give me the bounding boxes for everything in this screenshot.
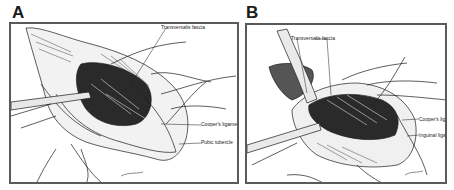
- panel-b-letter: B: [246, 4, 258, 21]
- surgical-drawing-a: [11, 24, 239, 184]
- panel-a-letter: A: [12, 4, 24, 21]
- label-inguinal-ligament-b: Inguinal ligament: [419, 133, 447, 138]
- label-coopers-ligament-b: Cooper's ligament: [419, 117, 447, 122]
- label-coopers-ligament-a: Cooper's ligament: [201, 122, 239, 127]
- surgical-drawing-b: [247, 25, 447, 184]
- label-transversalis-fascia-b: Transversalis fascia: [291, 36, 335, 41]
- panel-b-illustration: Transversalis fascia Cooper's ligament I…: [245, 23, 447, 184]
- label-transversalis-fascia-a: Transversalis fascia: [161, 25, 205, 30]
- label-pubic-tubercle-a: Pubic tubercle: [201, 140, 233, 145]
- panel-a-illustration: Transversalis fascia Cooper's ligament P…: [9, 22, 239, 184]
